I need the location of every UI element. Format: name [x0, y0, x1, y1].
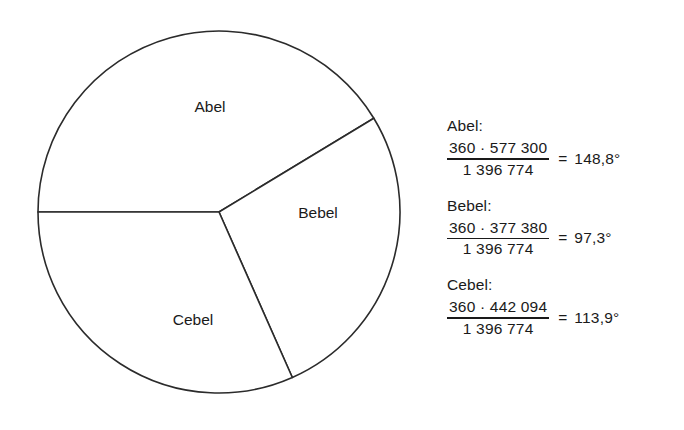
- calc-result-bebel: 97,3°: [574, 229, 611, 247]
- pie-label-bebel: Bebel: [298, 204, 338, 221]
- calc-block-bebel: Bebel: 360 · 377 380 1 396 774 = 97,3°: [447, 196, 684, 259]
- fraction-numerator-bebel: 360 · 377 380: [447, 219, 549, 238]
- calc-label-abel: Abel:: [447, 116, 684, 135]
- fraction-numerator-abel: 360 · 577 300: [447, 139, 549, 158]
- fraction-denominator-bebel: 1 396 774: [447, 239, 549, 258]
- fraction-denominator-cebel: 1 396 774: [447, 319, 549, 338]
- calc-block-cebel: Cebel: 360 · 442 094 1 396 774 = 113,9°: [447, 275, 684, 338]
- calc-block-abel: Abel: 360 · 577 300 1 396 774 = 148,8°: [447, 116, 684, 179]
- pie-chart: AbelBebelCebel: [0, 0, 430, 430]
- calc-equation-bebel: 360 · 377 380 1 396 774 = 97,3°: [447, 219, 684, 259]
- fraction-denominator-abel: 1 396 774: [447, 160, 549, 179]
- calc-label-bebel: Bebel:: [447, 196, 684, 215]
- fraction-abel: 360 · 577 300 1 396 774: [447, 139, 549, 179]
- pie-chart-figure: AbelBebelCebel Abel: 360 · 577 300 1 396…: [0, 0, 684, 430]
- pie-label-abel: Abel: [194, 98, 225, 115]
- pie-chart-svg: AbelBebelCebel: [0, 0, 430, 430]
- pie-label-cebel: Cebel: [173, 311, 214, 328]
- calc-result-cebel: 113,9°: [574, 309, 619, 327]
- calc-equation-abel: 360 · 577 300 1 396 774 = 148,8°: [447, 139, 684, 179]
- calc-result-abel: 148,8°: [574, 150, 620, 168]
- pie-sector-group: [38, 31, 400, 393]
- fraction-cebel: 360 · 442 094 1 396 774: [447, 298, 549, 338]
- equals-sign-cebel: =: [558, 309, 567, 327]
- angle-calculations: Abel: 360 · 577 300 1 396 774 = 148,8° B…: [447, 116, 684, 338]
- calc-equation-cebel: 360 · 442 094 1 396 774 = 113,9°: [447, 298, 684, 338]
- fraction-bebel: 360 · 377 380 1 396 774: [447, 219, 549, 259]
- calc-label-cebel: Cebel:: [447, 275, 684, 294]
- equals-sign-abel: =: [558, 150, 567, 168]
- equals-sign-bebel: =: [558, 229, 567, 247]
- fraction-numerator-cebel: 360 · 442 094: [447, 298, 549, 317]
